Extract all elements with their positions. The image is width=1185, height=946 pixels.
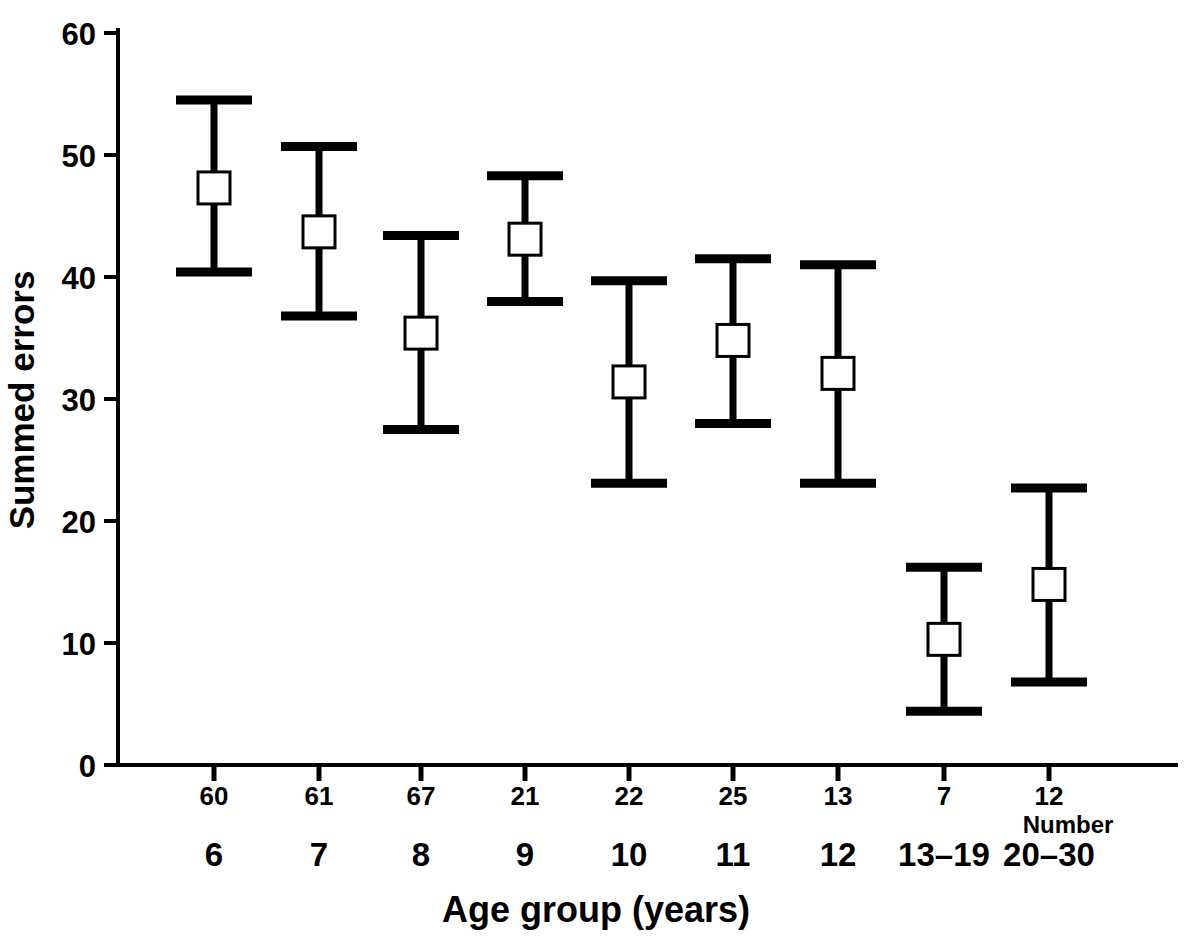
error-bar xyxy=(281,146,357,316)
error-bar xyxy=(906,567,982,711)
group-label: 11 xyxy=(716,836,751,873)
count-label: 12 xyxy=(1035,781,1064,811)
count-label: 21 xyxy=(511,781,540,811)
y-axis-ticks xyxy=(104,33,118,765)
y-tick-label-60: 60 xyxy=(62,17,96,52)
mean-marker xyxy=(509,223,541,255)
mean-marker xyxy=(822,357,854,389)
group-label: 12 xyxy=(820,836,857,873)
chart-svg: 60 50 40 30 20 10 0 Summed errors 606167… xyxy=(0,0,1185,946)
group-label: 10 xyxy=(611,836,648,873)
mean-marker xyxy=(717,324,749,356)
error-bar xyxy=(383,236,459,430)
group-label: 7 xyxy=(310,836,328,873)
count-label: 22 xyxy=(615,781,644,811)
y-tick-label-20: 20 xyxy=(62,505,96,540)
mean-marker xyxy=(405,317,437,349)
mean-marker xyxy=(613,366,645,398)
x-axis-ticks xyxy=(214,765,1049,781)
count-label: 13 xyxy=(824,781,853,811)
error-bar xyxy=(1011,488,1087,682)
y-tick-label-30: 30 xyxy=(62,383,96,418)
count-labels-row: 60616721222513712 xyxy=(200,781,1064,811)
error-bar xyxy=(176,100,252,272)
count-label: 7 xyxy=(937,781,951,811)
y-tick-label-50: 50 xyxy=(62,139,96,174)
chart-figure: 60 50 40 30 20 10 0 Summed errors 606167… xyxy=(0,0,1185,946)
error-bar-series xyxy=(176,100,1087,711)
count-label: 60 xyxy=(200,781,229,811)
group-label: 8 xyxy=(412,836,430,873)
y-tick-label-10: 10 xyxy=(62,627,96,662)
count-label: 25 xyxy=(719,781,748,811)
count-label: 61 xyxy=(305,781,334,811)
y-tick-label-40: 40 xyxy=(62,261,96,296)
error-bar xyxy=(800,265,876,483)
mean-marker xyxy=(303,216,335,248)
y-tick-label-0: 0 xyxy=(79,749,96,784)
error-bar xyxy=(591,281,667,484)
group-label: 13–19 xyxy=(898,836,990,873)
mean-marker xyxy=(198,172,230,204)
error-bar xyxy=(695,259,771,424)
error-bar xyxy=(487,176,563,302)
group-label: 20–30 xyxy=(1003,836,1095,873)
mean-marker xyxy=(1033,568,1065,600)
group-label: 9 xyxy=(516,836,534,873)
group-labels-row: 678910111213–1920–30 xyxy=(205,836,1095,873)
count-label: 67 xyxy=(407,781,436,811)
group-label: 6 xyxy=(205,836,223,873)
mean-marker xyxy=(928,623,960,655)
number-annotation: Number xyxy=(1023,811,1114,838)
x-axis-title: Age group (years) xyxy=(442,889,750,930)
y-axis-title: Summed errors xyxy=(2,271,41,530)
